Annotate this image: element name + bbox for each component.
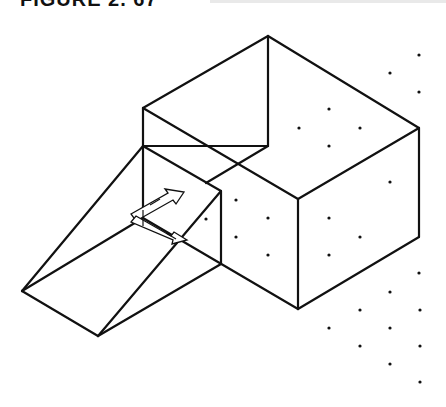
grid-dot: [327, 144, 330, 147]
ucs-y-arrow-icon: [131, 216, 187, 244]
grid-dot: [327, 326, 330, 329]
grid-dot: [358, 344, 361, 347]
grid-dot: [418, 380, 421, 383]
snap-grid-dots: [204, 53, 421, 383]
grid-dot: [388, 362, 391, 365]
grid-dot: [418, 344, 421, 347]
ramp-edge: [22, 218, 143, 291]
grid-dot: [417, 271, 420, 274]
box-edge: [298, 128, 419, 199]
grid-dot: [297, 126, 300, 129]
box-edge: [143, 36, 268, 108]
grid-dot: [358, 235, 361, 238]
grid-dot: [266, 216, 269, 219]
grid-dot: [388, 326, 391, 329]
grid-dot: [266, 253, 269, 256]
ramp-wireframe: [22, 146, 221, 336]
grid-dot: [327, 216, 330, 219]
grid-dot: [234, 235, 237, 238]
ramp-edge: [98, 264, 221, 336]
grid-dot: [417, 53, 420, 56]
grid-dot: [234, 198, 237, 201]
ucs-x-arrow-icon: [131, 189, 184, 221]
grid-dot: [358, 308, 361, 311]
ramp-edge: [143, 146, 221, 191]
ramp-edge: [98, 191, 221, 336]
grid-dot: [327, 107, 330, 110]
ramp-edge: [22, 146, 143, 291]
grid-dot: [204, 217, 207, 220]
grid-dot: [388, 290, 391, 293]
box-edge: [268, 36, 419, 128]
grid-dot: [358, 126, 361, 129]
grid-dot: [417, 90, 420, 93]
isometric-drawing: [0, 0, 446, 407]
grid-dot: [327, 253, 330, 256]
grid-dot: [388, 71, 391, 74]
box-wireframe: [143, 36, 419, 309]
grid-dot: [388, 180, 391, 183]
box-edge: [143, 108, 298, 199]
ramp-edge: [22, 291, 98, 336]
ucs-icon: [131, 189, 187, 244]
box-edge: [298, 237, 419, 309]
grid-dot: [418, 308, 421, 311]
